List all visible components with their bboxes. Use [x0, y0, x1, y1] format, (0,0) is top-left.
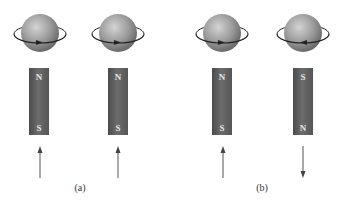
- spinning-sphere: [203, 14, 241, 52]
- magnet-top-pole: S: [300, 72, 305, 82]
- magnet-top-pole: N: [115, 72, 122, 82]
- magnet-top-pole: N: [219, 72, 226, 82]
- magnet-top-pole: N: [36, 72, 43, 82]
- arrowhead-icon: [301, 171, 306, 178]
- caption-a: (a): [74, 182, 85, 194]
- magnet-bottom-pole: S: [115, 123, 120, 133]
- unit-b2: S N: [277, 14, 329, 178]
- arrowhead-icon: [221, 146, 226, 153]
- caption-b: (b): [256, 182, 268, 194]
- spinning-sphere: [284, 14, 322, 52]
- spinning-sphere: [99, 14, 137, 52]
- magnet-bottom-pole: S: [219, 123, 224, 133]
- arrowhead-icon: [116, 146, 121, 153]
- magnet-bottom-pole: N: [300, 123, 307, 133]
- spin-magnet-diagram: N S N S N S S N (a): [0, 0, 339, 212]
- arrowhead-icon: [38, 146, 43, 153]
- unit-b1: N S: [196, 14, 248, 178]
- unit-a2: N S: [92, 14, 144, 178]
- spinning-sphere: [21, 14, 59, 52]
- unit-a1: N S: [14, 14, 66, 178]
- magnet-bottom-pole: S: [36, 123, 41, 133]
